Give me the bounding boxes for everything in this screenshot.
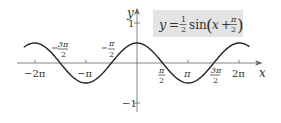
equation-coef-denominator: 2	[181, 25, 186, 34]
x-axis: x	[17, 60, 266, 80]
equation-arg-var: x	[212, 18, 219, 32]
label-den: 2	[213, 76, 218, 85]
x-axis-label: x	[259, 66, 266, 80]
label-num: π	[158, 66, 165, 75]
x-tick-labels: −2π 3π 2 −π π 2 π 2 π 3π 2	[24, 39, 245, 85]
x-tick-label-neg-2pi: −2π	[24, 68, 46, 79]
x-tick-label-2pi: 2π	[232, 68, 245, 79]
x-tick-label-3pi-2: 3π 2	[210, 66, 222, 85]
label-den: 2	[109, 50, 114, 59]
equation-func: sin	[189, 18, 207, 32]
label-num: 3π	[58, 40, 69, 49]
label-den: 2	[61, 50, 66, 59]
y-tick-label-neg1: −1	[122, 98, 137, 109]
equation-arg-denominator: 2	[231, 25, 236, 34]
label-num: π	[108, 39, 115, 48]
label-num: 3π	[211, 66, 222, 75]
x-tick-label-neg-pi-2: π 2	[102, 39, 115, 59]
chart: y = 1 2 sin ( x + π 2 ) x y 1 −1 −2π	[0, 0, 281, 123]
y-axis: y 1 −1	[122, 6, 140, 112]
x-tick-label-pi: π	[183, 68, 191, 79]
x-tick-label-pi-2: π 2	[158, 66, 165, 85]
equation-plus: +	[221, 18, 231, 32]
label-den: 2	[159, 76, 164, 85]
y-tick-label-1: 1	[128, 18, 134, 29]
equation-lhs: y	[158, 17, 167, 32]
equation-coef-numerator: 1	[181, 15, 186, 24]
equation-arg-numerator: π	[230, 15, 237, 24]
equation-equals: =	[169, 18, 179, 32]
equation-rparen: )	[237, 15, 244, 35]
x-tick-label-neg-pi: −π	[77, 68, 92, 79]
